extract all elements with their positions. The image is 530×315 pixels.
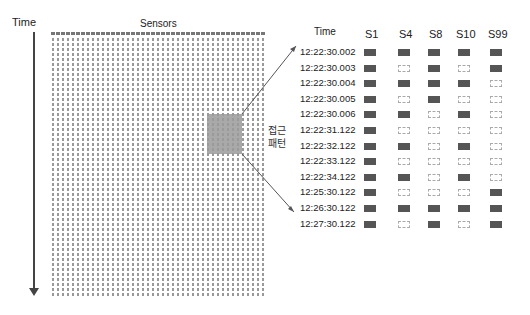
row-timestamp: 12:22:30.003 <box>300 62 370 73</box>
access-pattern-label: 접근 패턴 <box>268 124 286 150</box>
cell-inactive <box>490 80 502 87</box>
row-timestamp: 12:27:30.122 <box>300 218 370 229</box>
row-timestamp: 12:25:30.122 <box>300 186 370 197</box>
access-pattern-label-line1: 접근 <box>268 124 286 137</box>
cell-active <box>490 49 502 56</box>
cell-active <box>428 96 440 103</box>
cell-inactive <box>458 189 470 196</box>
cell-inactive <box>428 111 440 118</box>
cell-active <box>458 205 470 212</box>
cell-inactive <box>398 65 410 72</box>
cell-active <box>398 49 410 56</box>
cell-active <box>364 158 376 165</box>
cell-inactive <box>490 96 502 103</box>
cell-active <box>490 205 502 212</box>
cell-active <box>364 80 376 87</box>
row-timestamp: 12:22:32.122 <box>300 140 370 151</box>
cell-inactive <box>490 143 502 150</box>
sensor-header-s4: S4 <box>399 28 412 40</box>
cell-inactive <box>398 127 410 134</box>
table-time-header: Time <box>314 26 336 37</box>
cell-active <box>364 111 376 118</box>
row-timestamp: 12:22:31.122 <box>300 124 370 135</box>
cell-inactive <box>458 158 470 165</box>
cell-active <box>398 143 410 150</box>
cell-active <box>458 143 470 150</box>
row-timestamp: 12:26:30.122 <box>300 202 370 213</box>
cell-active <box>490 189 502 196</box>
cell-inactive <box>428 174 440 181</box>
cell-active <box>428 65 440 72</box>
cell-inactive <box>398 189 410 196</box>
cell-active <box>398 205 410 212</box>
cell-inactive <box>490 111 502 118</box>
cell-inactive <box>428 143 440 150</box>
cell-active <box>458 111 470 118</box>
cell-active <box>458 80 470 87</box>
cell-active <box>364 143 376 150</box>
row-timestamp: 12:22:30.002 <box>300 46 370 57</box>
cell-active <box>364 49 376 56</box>
cell-active <box>398 80 410 87</box>
cell-inactive <box>490 127 502 134</box>
cell-active <box>364 205 376 212</box>
cell-active <box>428 221 440 228</box>
sensor-header-s10: S10 <box>456 28 476 40</box>
cell-active <box>490 65 502 72</box>
cell-active <box>398 174 410 181</box>
access-pattern-label-line2: 패턴 <box>268 137 286 150</box>
cell-active <box>364 65 376 72</box>
cell-active <box>428 80 440 87</box>
cell-inactive <box>398 96 410 103</box>
cell-active <box>364 96 376 103</box>
cell-active <box>458 49 470 56</box>
cell-active <box>490 221 502 228</box>
cell-active <box>428 205 440 212</box>
sensor-header-s99: S99 <box>488 28 508 40</box>
row-timestamp: 12:22:33.122 <box>300 155 370 166</box>
cell-inactive <box>458 221 470 228</box>
cell-inactive <box>428 127 440 134</box>
cell-active <box>458 174 470 181</box>
cell-active <box>364 127 376 134</box>
row-timestamp: 12:22:30.006 <box>300 108 370 119</box>
row-timestamp: 12:22:30.005 <box>300 93 370 104</box>
row-timestamp: 12:22:30.004 <box>300 77 370 88</box>
cell-inactive <box>458 96 470 103</box>
cell-inactive <box>490 174 502 181</box>
cell-inactive <box>398 221 410 228</box>
cell-active <box>364 221 376 228</box>
cell-inactive <box>428 158 440 165</box>
cell-active <box>364 189 376 196</box>
row-timestamp: 12:22:34.122 <box>300 171 370 182</box>
sensor-header-s8: S8 <box>429 28 442 40</box>
cell-inactive <box>458 127 470 134</box>
cell-active <box>398 111 410 118</box>
cell-inactive <box>458 65 470 72</box>
cell-active <box>364 174 376 181</box>
zoom-connector-lines <box>0 0 530 315</box>
cell-inactive <box>490 158 502 165</box>
sensor-header-s1: S1 <box>365 28 378 40</box>
cell-active <box>428 49 440 56</box>
cell-inactive <box>398 158 410 165</box>
cell-inactive <box>428 189 440 196</box>
